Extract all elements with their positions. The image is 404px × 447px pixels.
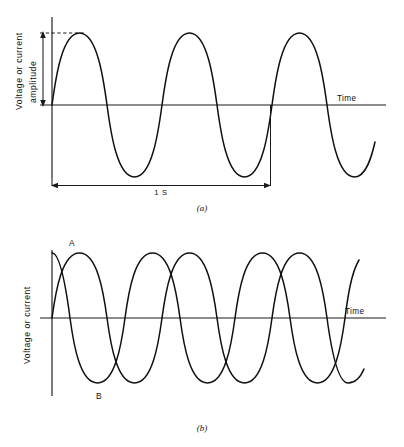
curve-label-a: A (69, 238, 75, 248)
panel-a-plot: Voltage or current amplitude Time 1 S (a… (0, 0, 404, 224)
y-axis-label-a-outer: Voltage or current (14, 32, 24, 110)
panel-b-caption: (b) (197, 423, 208, 433)
panel-a-caption: (a) (197, 203, 208, 213)
x-axis-label-a: Time (337, 94, 356, 103)
curve-label-b: B (96, 391, 102, 401)
y-axis-label-b: Voltage or current (22, 286, 32, 364)
amplitude-dimension-arrow (40, 31, 46, 107)
panel-b-plot: Voltage or current Time A B (b) (0, 224, 404, 447)
x-axis-label-b: Time (345, 307, 364, 316)
y-axis-label-a-inner: amplitude (28, 61, 38, 103)
panel-b: Voltage or current Time A B (b) (0, 224, 404, 447)
panel-a: Voltage or current amplitude Time 1 S (a… (0, 0, 404, 224)
period-label-a: 1 S (154, 188, 168, 197)
figure-root: Voltage or current amplitude Time 1 S (a… (0, 0, 404, 447)
